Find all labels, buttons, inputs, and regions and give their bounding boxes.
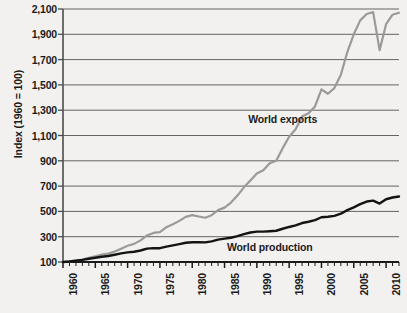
y-tick-label: 300 (9, 231, 57, 243)
x-tick-label: 1995 (293, 273, 305, 296)
x-tick-label: 1975 (164, 273, 176, 296)
x-tick-label: 1970 (132, 273, 144, 296)
annotation-world-exports: World exports (248, 113, 317, 125)
chart-container: Index (1960 = 100) 1003005007009001,1001… (0, 0, 407, 313)
y-tick-label: 1,100 (9, 130, 57, 142)
y-tick-label: 900 (9, 155, 57, 167)
x-tick-label: 2010 (390, 273, 402, 296)
y-tick-label: 1,300 (9, 104, 57, 116)
x-tick-label: 1990 (261, 273, 273, 296)
y-tick-label: 500 (9, 205, 57, 217)
x-tick-label: 1960 (67, 273, 79, 296)
y-tick-label: 100 (9, 256, 57, 268)
plot-area (0, 0, 407, 313)
x-tick-label: 2005 (358, 273, 370, 296)
data-series (63, 12, 399, 262)
x-tick-label: 2000 (325, 273, 337, 296)
y-tick-label: 1,900 (9, 28, 57, 40)
y-tick-label: 1,700 (9, 54, 57, 66)
y-tick-label: 700 (9, 180, 57, 192)
x-tick-label: 1980 (196, 273, 208, 296)
annotation-world-production: World production (227, 241, 313, 253)
x-tick-label: 1985 (229, 273, 241, 296)
series-line-world-exports (63, 12, 399, 262)
y-tick-label: 2,100 (9, 3, 57, 15)
x-tick-label: 1965 (99, 273, 111, 296)
y-tick-label: 1,500 (9, 79, 57, 91)
